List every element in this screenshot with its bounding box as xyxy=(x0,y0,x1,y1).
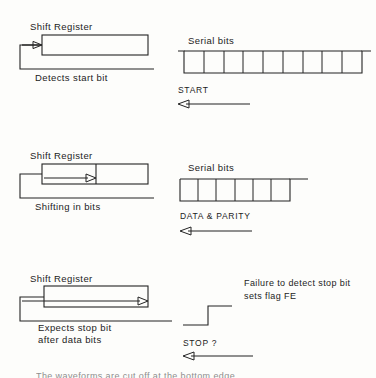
diagram-root: Shift Register Detects start bit Serial … xyxy=(0,0,376,378)
direction-arrow-stop xyxy=(0,250,376,378)
panel-start-bit: Shift Register Detects start bit Serial … xyxy=(0,0,376,128)
bottom-cut-caption: The waveforms are cut off at the bottom … xyxy=(36,371,235,378)
direction-arrow-start xyxy=(0,0,376,128)
panel-stop-bit: Shift Register Expects stop bit after da… xyxy=(0,250,376,378)
panel-data-parity: Shift Register Shifting in bits Serial b… xyxy=(0,128,376,250)
direction-arrow-data xyxy=(0,128,376,250)
